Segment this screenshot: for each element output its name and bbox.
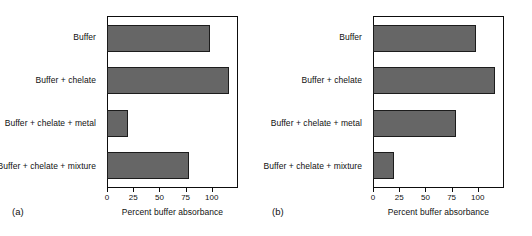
bar [373,110,456,137]
category-label: Buffer + chelate + metal [4,102,102,145]
x-axis-tick [399,188,400,192]
x-axis-tick-label: 75 [181,193,190,202]
plot-frame-b [373,16,504,188]
x-axis-tick-label: 100 [205,193,218,202]
x-axis-tick [373,188,374,192]
panel-b: Buffer Buffer + chelate Buffer + chelate… [266,0,532,236]
bar-slot [374,145,503,188]
bar-slot [374,60,503,103]
x-axis-a: Percent buffer absorbance 0255075100 [107,188,238,234]
category-label: Buffer + chelate + metal [270,102,368,145]
panel-tag-a: (a) [12,206,24,217]
x-axis-tick-label: 50 [421,193,430,202]
x-axis-tick-label: 25 [395,193,404,202]
bar [107,110,128,137]
bar [107,25,210,52]
x-axis-tick [159,188,160,192]
category-label: Buffer + chelate [270,59,368,102]
bar [107,67,229,94]
bar [373,25,476,52]
bar [107,152,189,179]
x-axis-tick-label: 25 [129,193,138,202]
x-axis-tick [478,188,479,192]
x-axis-tick [133,188,134,192]
x-axis-tick [425,188,426,192]
category-label: Buffer + chelate [4,59,102,102]
panel-a: Buffer Buffer + chelate Buffer + chelate… [0,0,266,236]
category-label: Buffer [4,16,102,59]
bar [373,152,394,179]
x-axis-tick-label: 0 [105,193,109,202]
bar-slot [374,102,503,145]
bar-slot [374,17,503,60]
bar-slot [108,60,237,103]
category-label: Buffer + chelate + mixture [270,145,368,188]
category-label: Buffer [270,16,368,59]
bar-slot [108,102,237,145]
bar [373,67,495,94]
x-axis-tick [107,188,108,192]
category-label: Buffer + chelate + mixture [4,145,102,188]
bar-slot [108,17,237,60]
x-axis-tick [186,188,187,192]
bar-series-a [108,17,237,187]
x-axis-tick-label: 100 [471,193,484,202]
bar-series-b [374,17,503,187]
x-axis-tick-label: 50 [155,193,164,202]
x-axis-tick [452,188,453,192]
category-axis-a: Buffer Buffer + chelate Buffer + chelate… [4,16,102,188]
x-axis-tick [212,188,213,192]
x-axis-b: Percent buffer absorbance 0255075100 [373,188,504,234]
x-axis-title: Percent buffer absorbance [122,207,223,217]
bar-slot [108,145,237,188]
x-axis-tick-label: 75 [447,193,456,202]
x-axis-title: Percent buffer absorbance [388,207,489,217]
figure-two-panel-bar-chart: Buffer Buffer + chelate Buffer + chelate… [0,0,532,236]
category-axis-b: Buffer Buffer + chelate Buffer + chelate… [270,16,368,188]
plot-frame-a [107,16,238,188]
x-axis-tick-label: 0 [371,193,375,202]
panel-tag-b: (b) [272,206,284,217]
